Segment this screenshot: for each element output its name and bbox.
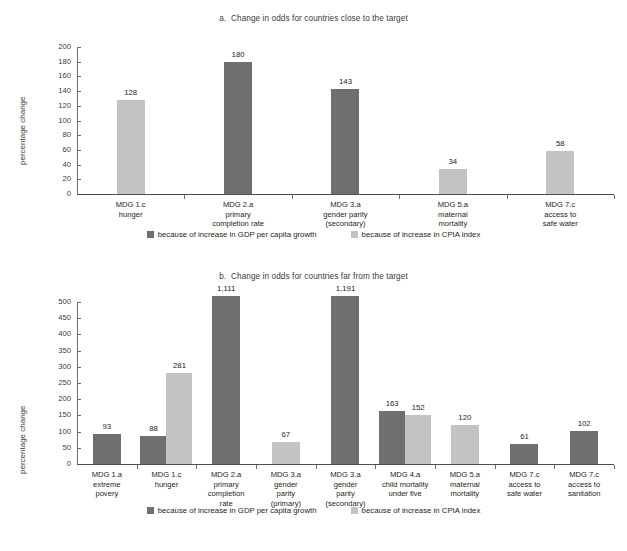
x-tick-mark: [495, 465, 496, 469]
bar-value-label: 281: [173, 362, 186, 370]
x-tick-mark: [507, 195, 508, 199]
bar-cpia: 58: [546, 151, 574, 194]
bar-group: 1,191: [316, 302, 376, 464]
legend-swatch-cpia: [351, 507, 358, 514]
x-axis-category-label: MDG 1.c hunger: [77, 200, 184, 219]
bar-gdp: 180: [224, 62, 252, 194]
legend-swatch-gdp: [147, 507, 154, 514]
bar-value-label: 1,111: [217, 285, 235, 293]
chart-a-legend: because of increase in GDP per capita gr…: [0, 230, 627, 239]
x-axis-category-label: MDG 4.a child mortality under five: [375, 470, 435, 499]
bar-group: 163152: [375, 302, 435, 464]
x-tick-mark: [399, 195, 400, 199]
x-tick-mark: [137, 465, 138, 469]
x-axis-category-label: MDG 7.c access to sanitation: [554, 470, 614, 499]
bar-gdp: 61: [510, 444, 538, 464]
chart-panel-a: a. Change in odds for countries close to…: [0, 0, 627, 262]
bar-cpia: 281: [166, 373, 192, 464]
bar-group: 102: [554, 302, 614, 464]
bar-group: 93: [77, 302, 137, 464]
bar-value-label: 152: [412, 404, 425, 412]
bar-value-label: 163: [386, 400, 399, 408]
x-axis-category-label: MDG 2.a primary completion rate: [196, 470, 256, 508]
bar-gdp: 1,191: [331, 296, 359, 464]
x-tick-mark: [435, 465, 436, 469]
bar-gdp: 143: [331, 89, 359, 194]
bar-value-label: 1,191: [336, 285, 356, 293]
legend-label-cpia: because of increase in CPIA index: [362, 506, 481, 515]
x-tick-mark: [614, 465, 615, 469]
bar-cpia: 34: [439, 169, 467, 194]
legend-swatch-cpia: [351, 231, 358, 238]
bar-cpia: 120: [451, 425, 479, 464]
x-tick-mark: [554, 465, 555, 469]
x-tick-mark: [316, 465, 317, 469]
bar-value-label: 58: [556, 140, 565, 148]
bar-group: 67: [256, 302, 316, 464]
legend-item-cpia: because of increase in CPIA index: [351, 230, 481, 239]
bar-value-label: 61: [520, 433, 529, 441]
bar-value-label: 128: [124, 89, 137, 97]
bar-gdp: 102: [570, 431, 598, 464]
chart-b-legend: because of increase in GDP per capita gr…: [0, 506, 627, 515]
bar-group: 1,111: [196, 302, 256, 464]
x-axis-category-label: MDG 1.a extreme povery: [77, 470, 137, 499]
bar-gdp: 1,111: [212, 296, 240, 464]
x-axis-category-label: MDG 7.c access to safe water: [495, 470, 555, 499]
legend-item-gdp: because of increase in GDP per capita gr…: [147, 506, 317, 515]
legend-item-gdp: because of increase in GDP per capita gr…: [147, 230, 317, 239]
bar-gdp: 163: [379, 411, 405, 464]
bar-value-label: 88: [149, 425, 158, 433]
bar-gdp: 93: [93, 434, 121, 464]
bar-value-label: 67: [281, 431, 290, 439]
bar-value-label: 180: [232, 51, 245, 59]
x-axis-category-label: MDG 1.c hunger: [137, 470, 197, 489]
bar-value-label: 102: [578, 420, 591, 428]
bar-group: 58: [507, 47, 614, 194]
bar-value-label: 93: [102, 423, 111, 431]
bar-value-label: 34: [449, 158, 458, 166]
bar-cpia: 152: [405, 415, 431, 464]
bar-cpia: 67: [272, 442, 300, 464]
bar-group: 88281: [137, 302, 197, 464]
chart-panel-b: b. Change in odds for countries far from…: [0, 262, 627, 551]
bar-group: 143: [292, 47, 399, 194]
x-tick-mark: [375, 465, 376, 469]
x-tick-mark: [292, 195, 293, 199]
x-axis-category-label: MDG 5.a maternal mortality: [435, 470, 495, 499]
legend-label-cpia: because of increase in CPIA index: [362, 230, 481, 239]
x-axis-category-label: MDG 2.a primary completion rate: [184, 200, 291, 229]
bar-gdp: 88: [140, 436, 166, 465]
bar-group: 61: [495, 302, 555, 464]
bar-group: 180: [184, 47, 291, 194]
legend-label-gdp: because of increase in GDP per capita gr…: [158, 506, 317, 515]
bar-value-label: 120: [458, 414, 471, 422]
x-tick-mark: [256, 465, 257, 469]
x-tick-mark: [196, 465, 197, 469]
bar-value-label: 143: [339, 78, 352, 86]
x-tick-mark: [184, 195, 185, 199]
bar-group: 120: [435, 302, 495, 464]
x-tick-mark: [614, 195, 615, 199]
x-axis-category-label: MDG 3.a gender parity (secondary): [316, 470, 376, 508]
bar-cpia: 128: [117, 100, 145, 194]
bar-group: 128: [77, 47, 184, 194]
x-axis-category-label: MDG 3.a gender parity (secondary): [292, 200, 399, 229]
x-axis-category-label: MDG 5.a maternal mortality: [399, 200, 506, 229]
legend-item-cpia: because of increase in CPIA index: [351, 506, 481, 515]
bar-group: 34: [399, 47, 506, 194]
x-axis-category-label: MDG 3.a gender parity (primary): [256, 470, 316, 508]
x-axis-category-label: MDG 7.c access to safe water: [507, 200, 614, 229]
legend-label-gdp: because of increase in GDP per capita gr…: [158, 230, 317, 239]
legend-swatch-gdp: [147, 231, 154, 238]
